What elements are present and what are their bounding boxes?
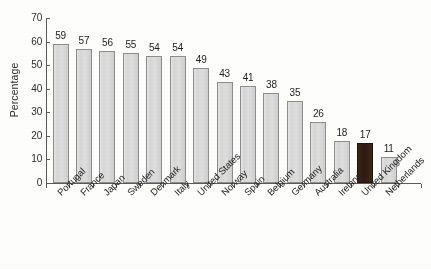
bar	[263, 93, 279, 183]
bar-chart: Percentage 010203040506070 5957565554544…	[0, 0, 431, 269]
y-tick-mark	[46, 42, 50, 43]
bar-value-label: 49	[187, 55, 215, 65]
x-tick-mark	[46, 184, 47, 188]
y-tick-label: 10	[18, 154, 42, 164]
y-axis-line	[46, 18, 47, 183]
bar	[53, 44, 69, 183]
bar-value-label: 17	[351, 130, 379, 140]
bar	[99, 51, 115, 183]
y-tick-label: 30	[18, 107, 42, 117]
bar-value-label: 26	[304, 109, 332, 119]
y-tick-label: 50	[18, 60, 42, 70]
bar	[170, 56, 186, 183]
y-tick-mark	[46, 136, 50, 137]
y-tick-label: 20	[18, 131, 42, 141]
y-tick-mark	[46, 159, 50, 160]
bar	[76, 49, 92, 183]
y-tick-mark	[46, 89, 50, 90]
x-tick-mark	[421, 184, 422, 188]
y-tick-label: 70	[18, 13, 42, 23]
y-tick-label: 0	[18, 178, 42, 188]
y-tick-mark	[46, 112, 50, 113]
y-tick-mark	[46, 18, 50, 19]
y-tick-mark	[46, 65, 50, 66]
bar	[193, 68, 209, 184]
bar-value-label: 54	[164, 43, 192, 53]
bar-value-label: 35	[281, 88, 309, 98]
y-tick-label: 40	[18, 84, 42, 94]
bar	[123, 53, 139, 183]
y-tick-label: 60	[18, 37, 42, 47]
bar	[146, 56, 162, 183]
